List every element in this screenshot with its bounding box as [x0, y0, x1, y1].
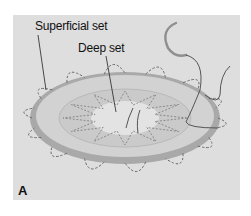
leader-line-superficial [38, 35, 46, 90]
label-superficial-set: Superficial set [35, 19, 107, 33]
panel-letter: A [18, 183, 27, 198]
label-deep-set: Deep set [78, 41, 124, 55]
needle-icon [165, 23, 186, 56]
suture-thread-tail [205, 66, 230, 100]
